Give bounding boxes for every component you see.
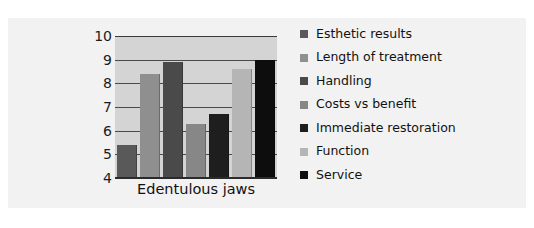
category-label-edentulous-jaws: Edentulous jaws [115, 181, 277, 197]
legend-item-service[interactable]: Service [300, 167, 362, 183]
y-tick-label-5: 5 [103, 147, 112, 161]
bar-immediate-restoration [209, 114, 229, 178]
plot-area [115, 36, 277, 178]
y-tick-label-8: 8 [103, 76, 112, 90]
bar-esthetic-results [117, 145, 137, 178]
legend-label: Length of treatment [316, 51, 442, 64]
legend-label: Costs vs benefit [316, 98, 416, 111]
y-tick-label-10: 10 [94, 29, 112, 43]
legend-label: Immediate restoration [316, 122, 456, 135]
legend-swatch-icon [300, 124, 308, 132]
bar-function [232, 69, 252, 178]
bar-chart-figure: 45678910 Edentulous jaws Esthetic result… [0, 0, 534, 228]
y-tick-label-9: 9 [103, 53, 112, 67]
bar-costs-vs-benefit [186, 124, 206, 178]
legend-swatch-icon [300, 171, 308, 179]
y-tick-label-7: 7 [103, 100, 112, 114]
legend-item-handling[interactable]: Handling [300, 73, 372, 89]
legend-item-costs-vs-benefit[interactable]: Costs vs benefit [300, 97, 416, 113]
y-tick-label-4: 4 [103, 171, 112, 185]
legend-item-esthetic-results[interactable]: Esthetic results [300, 26, 412, 42]
bar-handling [163, 62, 183, 178]
legend-swatch-icon [300, 30, 308, 38]
y-tick-label-6: 6 [103, 124, 112, 138]
legend-item-length-of-treatment[interactable]: Length of treatment [300, 50, 442, 66]
bar-group-edentulous-jaws [115, 36, 277, 178]
legend-swatch-icon [300, 101, 308, 109]
x-axis-line [115, 177, 277, 179]
legend-label: Esthetic results [316, 28, 412, 41]
legend-item-immediate-restoration[interactable]: Immediate restoration [300, 120, 456, 136]
legend-label: Handling [316, 75, 372, 88]
y-axis-tick-labels: 45678910 [86, 36, 112, 178]
legend-label: Function [316, 145, 369, 158]
bar-service [255, 60, 275, 178]
legend-label: Service [316, 169, 362, 182]
chart-legend: Esthetic resultsLength of treatmentHandl… [300, 26, 515, 186]
legend-swatch-icon [300, 54, 308, 62]
bar-length-of-treatment [140, 74, 160, 178]
legend-swatch-icon [300, 77, 308, 85]
legend-swatch-icon [300, 148, 308, 156]
legend-item-function[interactable]: Function [300, 144, 369, 160]
